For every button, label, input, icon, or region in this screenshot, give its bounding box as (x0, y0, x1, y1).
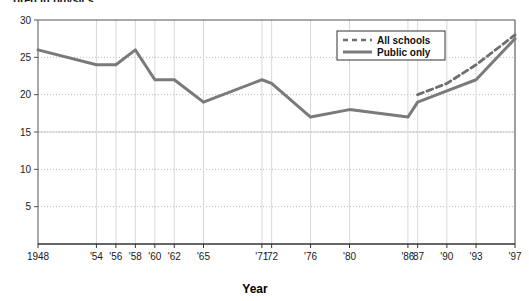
x-tick-label: '58 (129, 251, 142, 262)
x-tick-label: '97 (508, 251, 521, 262)
legend-label-public-only: Public only (377, 47, 431, 58)
x-axis-title: Year (242, 282, 268, 296)
x-tick-label: '56 (109, 251, 122, 262)
x-tick-label: '90 (440, 251, 453, 262)
plot-area: 51015202530 1948'54'56'58'60'62'65'71'72… (20, 15, 522, 263)
x-tick-label: '65 (197, 251, 210, 262)
y-tick-label: 30 (20, 15, 32, 26)
y-tick-label: 5 (25, 201, 31, 212)
chart-container: ...ored in physics 51015202530 1948'54'5… (0, 0, 529, 301)
x-tick-label: '76 (304, 251, 317, 262)
x-tick-label: '87 (411, 251, 424, 262)
legend: All schools Public only (337, 31, 445, 60)
x-tick-label: '54 (90, 251, 103, 262)
x-tick-label: '80 (343, 251, 356, 262)
x-tick-label: '72 (265, 251, 278, 262)
y-tick-label: 20 (20, 89, 32, 100)
legend-label-all-schools: All schools (377, 35, 431, 46)
line-chart: 51015202530 1948'54'56'58'60'62'65'71'72… (0, 0, 529, 301)
x-axis-ticks: 1948'54'56'58'60'62'65'71'72'76'80'86'87… (27, 244, 522, 262)
x-tick-label: '62 (168, 251, 181, 262)
x-tick-label: '93 (470, 251, 483, 262)
x-tick-label: '60 (148, 251, 161, 262)
x-tick-label: 1948 (27, 251, 50, 262)
y-tick-label: 25 (20, 52, 32, 63)
y-axis-ticks: 51015202530 (20, 15, 38, 213)
y-tick-label: 15 (20, 127, 32, 138)
y-tick-label: 10 (20, 164, 32, 175)
